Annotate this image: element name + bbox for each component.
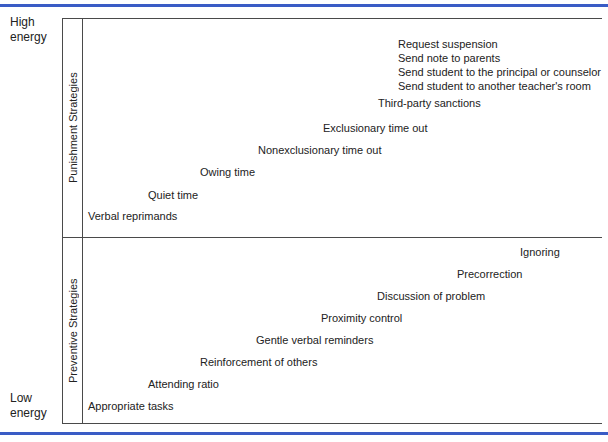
low-energy-line1: Low xyxy=(10,391,47,406)
low-energy-line2: energy xyxy=(10,406,47,421)
punishment-strategy-item: Send student to the principal or counsel… xyxy=(398,66,601,78)
preventive-strategy-item: Reinforcement of others xyxy=(200,356,317,368)
preventive-strategy-item: Gentle verbal reminders xyxy=(256,334,373,346)
low-energy-label: Low energy xyxy=(10,391,47,421)
punishment-strategy-item: Send note to parents xyxy=(398,52,500,64)
punishment-strategy-item: Third-party sanctions xyxy=(378,97,481,109)
preventive-strategy-item: Precorrection xyxy=(457,268,522,280)
punishment-strategies-section-label: Punishment Strategies xyxy=(62,18,83,237)
high-energy-line1: High xyxy=(10,15,47,30)
punishment-strategy-item: Verbal reprimands xyxy=(88,210,177,222)
box-top-border xyxy=(62,18,602,19)
preventive-strategy-item: Attending ratio xyxy=(148,378,219,390)
preventive-strategy-item: Ignoring xyxy=(520,246,560,258)
punishment-strategy-item: Request suspension xyxy=(398,38,498,50)
top-rule xyxy=(0,4,608,7)
high-energy-line2: energy xyxy=(10,30,47,45)
strategies-energy-diagram: High energy Low energy Punishment Strate… xyxy=(0,0,608,442)
bottom-rule xyxy=(0,432,608,435)
high-energy-label: High energy xyxy=(10,15,47,45)
preventive-strategy-item: Discussion of problem xyxy=(377,290,485,302)
punishment-strategy-item: Quiet time xyxy=(148,189,198,201)
punishment-strategy-item: Exclusionary time out xyxy=(323,122,428,134)
preventive-strategy-item: Appropriate tasks xyxy=(88,400,174,412)
preventive-strategies-section-label: Preventive Strategies xyxy=(62,238,83,423)
punishment-strategy-item: Send student to another teacher's room xyxy=(398,80,591,92)
punishment-strategy-item: Nonexclusionary time out xyxy=(258,144,382,156)
box-bottom-border xyxy=(62,423,602,424)
preventive-strategy-item: Proximity control xyxy=(321,312,402,324)
section-divider-line xyxy=(62,237,602,238)
punishment-strategy-item: Owing time xyxy=(200,166,255,178)
